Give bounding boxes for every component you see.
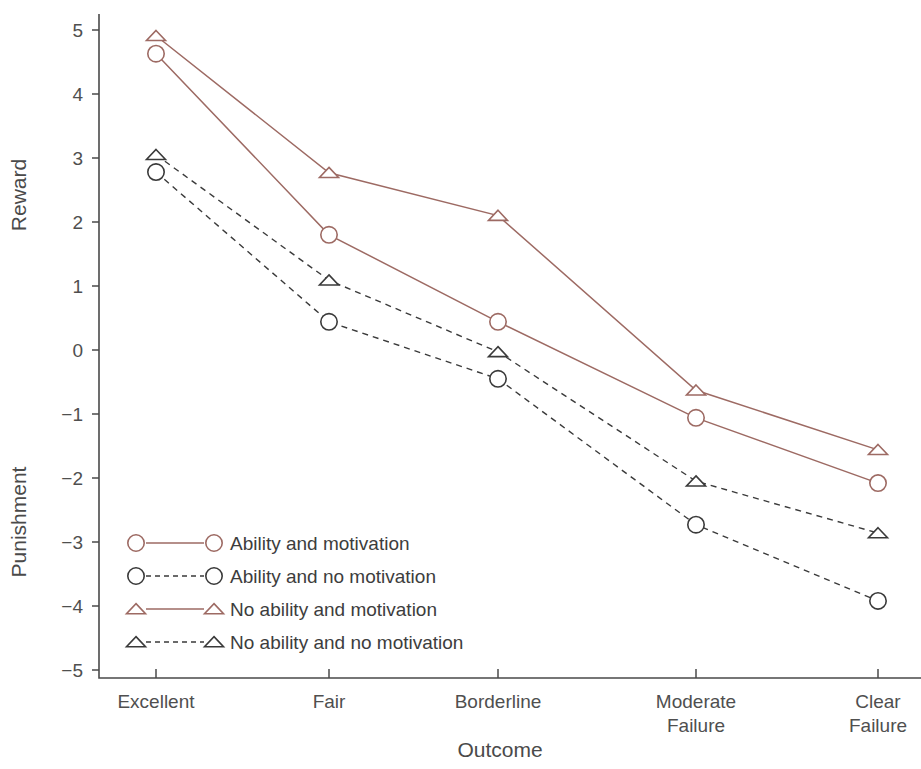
line-chart-canvas: 543210−1−2−3−4−5ExcellentFairBorderlineM… — [0, 0, 921, 769]
chart-legend: Ability and motivationAbility and no mot… — [127, 533, 464, 653]
x-tick-label: Borderline — [455, 691, 542, 712]
y-tick-label: −3 — [61, 532, 83, 553]
y-tick-label: −5 — [61, 660, 83, 681]
data-marker-triangle — [320, 275, 339, 285]
legend-marker-circle — [128, 568, 144, 584]
x-tick-label: Moderate — [656, 691, 736, 712]
data-marker-triangle — [687, 476, 706, 486]
data-marker-circle — [688, 517, 704, 533]
data-marker-circle — [148, 45, 164, 61]
y-tick-label: −4 — [61, 596, 83, 617]
y-tick-label: −1 — [61, 404, 83, 425]
data-marker-circle — [490, 314, 506, 330]
y-tick-label: 1 — [72, 276, 83, 297]
data-series — [147, 30, 888, 609]
legend-marker-triangle — [127, 604, 146, 614]
data-marker-triangle — [489, 210, 508, 220]
legend-marker-triangle — [205, 604, 224, 614]
x-tick-label-line2: Failure — [849, 715, 907, 736]
data-marker-triangle — [147, 149, 166, 159]
series-3 — [147, 30, 888, 454]
y-axis-title-punishment: Punishment — [7, 466, 30, 577]
x-axis-title: Outcome — [457, 738, 542, 761]
x-tick-label-line2: Failure — [667, 715, 725, 736]
legend-entry-4[interactable]: No ability and no motivation — [127, 632, 464, 653]
data-marker-circle — [321, 314, 337, 330]
tick-labels: 543210−1−2−3−4−5ExcellentFairBorderlineM… — [61, 20, 907, 736]
data-marker-circle — [870, 475, 886, 491]
legend-marker-triangle — [205, 637, 224, 647]
data-marker-triangle — [869, 528, 888, 538]
x-tick-label: Excellent — [117, 691, 195, 712]
legend-entry-3[interactable]: No ability and motivation — [127, 599, 438, 620]
legend-marker-circle — [206, 568, 222, 584]
data-marker-circle — [870, 593, 886, 609]
axis-titles: RewardPunishmentOutcome — [7, 159, 543, 761]
series-line — [156, 54, 878, 483]
y-tick-label: 3 — [72, 148, 83, 169]
x-tick-label: Fair — [313, 691, 346, 712]
chart-figure: 543210−1−2−3−4−5ExcellentFairBorderlineM… — [0, 0, 921, 769]
data-marker-triangle — [489, 347, 508, 357]
legend-label: No ability and no motivation — [230, 632, 463, 653]
data-marker-circle — [148, 164, 164, 180]
series-line — [156, 155, 878, 533]
y-tick-label: 4 — [72, 84, 83, 105]
y-tick-label: 5 — [72, 20, 83, 41]
y-axis-title-reward: Reward — [7, 159, 30, 231]
data-marker-triangle — [147, 30, 166, 40]
series-1 — [148, 45, 886, 491]
legend-marker-triangle — [127, 637, 146, 647]
data-marker-circle — [321, 227, 337, 243]
legend-label: No ability and motivation — [230, 599, 437, 620]
legend-entry-2[interactable]: Ability and no motivation — [128, 566, 436, 587]
data-marker-triangle — [687, 385, 706, 395]
data-marker-triangle — [320, 167, 339, 177]
data-marker-circle — [688, 410, 704, 426]
data-marker-triangle — [869, 445, 888, 455]
legend-entry-1[interactable]: Ability and motivation — [128, 533, 410, 554]
y-tick-label: −2 — [61, 468, 83, 489]
legend-label: Ability and no motivation — [230, 566, 436, 587]
legend-marker-circle — [206, 535, 222, 551]
series-4 — [147, 149, 888, 537]
legend-label: Ability and motivation — [230, 533, 410, 554]
y-tick-label: 0 — [72, 340, 83, 361]
legend-marker-circle — [128, 535, 144, 551]
x-tick-label: Clear — [855, 691, 901, 712]
data-marker-circle — [490, 371, 506, 387]
series-line — [156, 36, 878, 450]
y-tick-label: 2 — [72, 212, 83, 233]
